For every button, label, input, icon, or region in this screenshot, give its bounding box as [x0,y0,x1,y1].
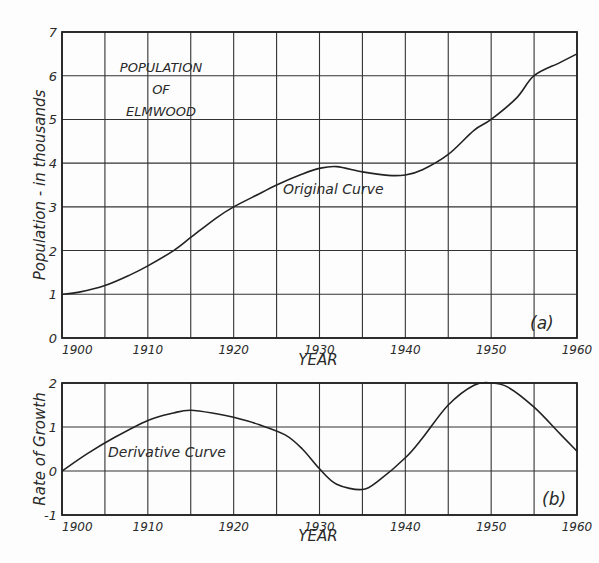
x-tick-label: 1910 [133,343,164,357]
x-tick-label: 1910 [133,520,164,534]
x-tick-label: 1940 [390,520,421,534]
original-curve-label: Original Curve [283,181,384,197]
y-tick-label: 0 [49,331,57,346]
y-tick-label: 6 [49,69,57,84]
y-tick-label: 1 [49,420,57,435]
y-tick-label: 3 [49,200,57,215]
derivative-y-axis-label: Rate of Growth [31,392,49,505]
x-tick-label: 1920 [218,343,249,357]
y-tick-label: 2 [49,244,57,259]
y-tick-label: 7 [49,25,58,40]
population-x-axis-label: YEAR [298,351,337,369]
x-tick-label: 1950 [476,520,507,534]
panel-a-label: (a) [530,313,554,333]
y-tick-label: 4 [49,156,57,171]
x-tick-label: 1960 [562,520,593,534]
population-chart: 01234567 1900191019201930194019501960 PO… [31,25,593,369]
population-y-ticks: 01234567 [49,25,58,346]
y-tick-label: 0 [49,464,57,479]
x-tick-label: 1940 [390,343,421,357]
x-tick-label: 1960 [562,343,593,357]
y-tick-label: 2 [49,376,57,391]
x-tick-label: 1920 [218,520,249,534]
x-tick-label: 1900 [62,343,93,357]
population-y-axis-label: Population - in thousands [31,89,49,280]
y-tick-label: 5 [49,112,57,127]
chart-title-line-2: OF [152,82,170,97]
y-tick-label: 1 [49,287,57,302]
panel-b-label: (b) [542,489,566,509]
figure: 01234567 1900191019201930194019501960 PO… [0,0,599,563]
derivative-curve-label: Derivative Curve [108,444,226,460]
chart-title-line-3: ELMWOOD [126,104,196,119]
derivative-x-axis-label: YEAR [298,527,337,545]
x-tick-label: 1900 [62,520,93,534]
x-tick-label: 1950 [476,343,507,357]
derivative-chart: -1012 1900191019201930194019501960 Deriv… [31,376,593,545]
y-tick-label: -1 [44,508,57,523]
chart-title-line-1: POPULATION [120,60,203,75]
